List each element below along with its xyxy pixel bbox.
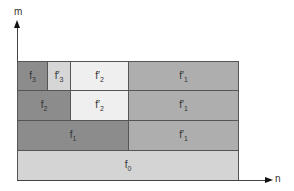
block-f2-prime-mid: f′2 — [70, 90, 129, 121]
block-subscript: 3 — [32, 76, 36, 83]
block-f3: f3 — [17, 61, 48, 91]
block-subscript: 2 — [43, 105, 47, 112]
n-axis-label: n — [275, 173, 281, 184]
block-f2-prime-top: f′2 — [70, 61, 129, 91]
n-axis-arrow-icon — [265, 177, 273, 183]
block-f1: f1 — [17, 120, 129, 151]
block-f1-prime-top: f′1 — [128, 61, 239, 91]
block-f2: f2 — [17, 90, 71, 121]
n-axis — [17, 180, 267, 181]
block-subscript: 2 — [100, 105, 104, 112]
block-subscript: 2 — [100, 76, 104, 83]
block-f1-prime-mid: f′1 — [128, 90, 239, 121]
block-subscript: 1 — [184, 76, 188, 83]
block-f1-prime-low: f′1 — [128, 120, 239, 151]
block-subscript: 1 — [184, 135, 188, 142]
m-axis-arrow-icon — [14, 20, 20, 28]
m-axis-label: m — [14, 6, 22, 17]
block-subscript: 3 — [59, 76, 63, 83]
block-subscript: 0 — [127, 165, 131, 172]
block-f0: f0 — [17, 150, 239, 181]
block-subscript: 1 — [72, 135, 76, 142]
block-subscript: 1 — [184, 105, 188, 112]
block-f3-prime: f′3 — [47, 61, 71, 91]
